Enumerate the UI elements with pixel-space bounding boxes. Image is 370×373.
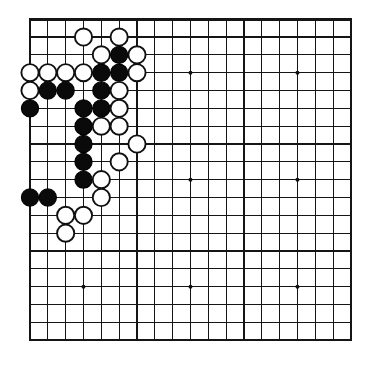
go-board-canvas[interactable] [0, 0, 370, 373]
white-stone[interactable] [111, 82, 128, 99]
white-stone[interactable] [75, 64, 92, 81]
white-stone[interactable] [93, 46, 110, 63]
black-stone[interactable] [75, 171, 92, 188]
white-stone[interactable] [75, 28, 92, 45]
white-stone[interactable] [93, 118, 110, 135]
white-stone[interactable] [128, 135, 145, 152]
go-board[interactable] [0, 0, 370, 373]
white-stone[interactable] [21, 64, 38, 81]
black-stone[interactable] [39, 189, 56, 206]
black-stone[interactable] [75, 153, 92, 170]
star-point [188, 71, 192, 75]
white-stone[interactable] [128, 46, 145, 63]
black-stone[interactable] [111, 46, 128, 63]
black-stone[interactable] [57, 82, 74, 99]
black-stone[interactable] [75, 135, 92, 152]
black-stone[interactable] [21, 189, 38, 206]
white-stone[interactable] [93, 171, 110, 188]
black-stone[interactable] [21, 100, 38, 117]
star-point [81, 285, 85, 289]
go-diagram-root [0, 0, 370, 373]
star-point [295, 285, 299, 289]
star-point [295, 178, 299, 182]
black-stone[interactable] [93, 64, 110, 81]
white-stone[interactable] [57, 64, 74, 81]
white-stone[interactable] [128, 64, 145, 81]
black-stone[interactable] [93, 100, 110, 117]
black-stone[interactable] [93, 82, 110, 99]
white-stone[interactable] [57, 207, 74, 224]
white-stone[interactable] [39, 64, 56, 81]
black-stone[interactable] [75, 118, 92, 135]
white-stone[interactable] [111, 100, 128, 117]
white-stone[interactable] [57, 225, 74, 242]
white-stone[interactable] [75, 207, 92, 224]
white-stone[interactable] [21, 82, 38, 99]
star-point [188, 285, 192, 289]
black-stone[interactable] [111, 64, 128, 81]
white-stone[interactable] [111, 28, 128, 45]
white-stone[interactable] [111, 118, 128, 135]
white-stone[interactable] [111, 153, 128, 170]
black-stone[interactable] [39, 82, 56, 99]
star-point [188, 178, 192, 182]
star-point [295, 71, 299, 75]
black-stone[interactable] [75, 100, 92, 117]
white-stone[interactable] [93, 189, 110, 206]
